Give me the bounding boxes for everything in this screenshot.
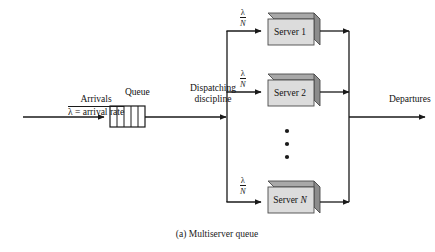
branch-rate-label-1: λ N — [240, 8, 246, 28]
branch-rate-label-3: λ N — [240, 176, 246, 196]
branch-rate-numerator-1: λ — [240, 8, 246, 17]
server-label-1: Server 1 — [262, 27, 318, 37]
arrivals-top-text: Arrivals — [68, 95, 124, 106]
server-label-2: Server 2 — [262, 88, 318, 98]
figure-caption: (a) Multiserver queue — [176, 229, 258, 239]
server-name-2: Server — [274, 88, 299, 98]
server-index-3: N — [300, 195, 306, 205]
queue-label: Queue — [125, 88, 150, 98]
arrivals-bottom-text: λ = arrival rate — [68, 107, 124, 118]
branch-rate-denominator-2: N — [240, 80, 246, 89]
diagram-canvas — [0, 0, 435, 252]
multiserver-queue-figure: Arrivals λ = arrival rate Queue Dispatch… — [0, 0, 435, 252]
server-name-1: Server — [274, 27, 299, 37]
server-label-3: Server N — [262, 195, 318, 205]
branch-rate-label-2: λ N — [240, 69, 246, 89]
branch-rate-denominator-3: N — [240, 187, 246, 196]
branch-rate-denominator-1: N — [240, 19, 246, 28]
server-name-3: Server — [273, 195, 298, 205]
dispatching-discipline-label: Dispatching discipline — [190, 83, 236, 105]
server-index-1: 1 — [301, 27, 306, 37]
arrivals-label: Arrivals λ = arrival rate — [68, 95, 124, 117]
ellipsis-dots — [285, 129, 289, 159]
departures-label: Departures — [389, 95, 431, 105]
branch-rate-numerator-3: λ — [240, 176, 246, 185]
dispatching-line-2: discipline — [190, 94, 236, 105]
server-index-2: 2 — [301, 88, 306, 98]
dispatching-line-1: Dispatching — [190, 83, 236, 94]
branch-rate-numerator-2: λ — [240, 69, 246, 78]
